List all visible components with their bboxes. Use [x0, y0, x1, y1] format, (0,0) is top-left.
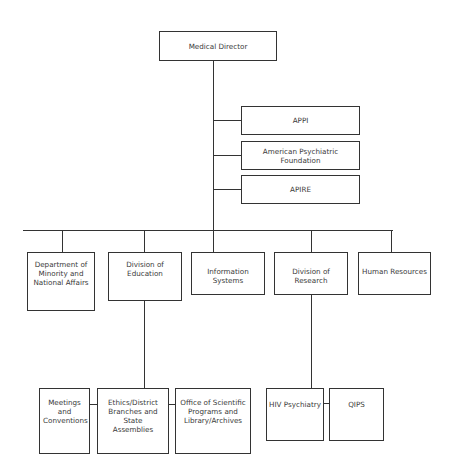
node-medical-director: Medical Director — [159, 31, 277, 61]
node-label: Division of Education — [126, 260, 164, 278]
connector-div-education — [144, 230, 145, 252]
node-appi: APPI — [241, 106, 360, 135]
connector-dept-minority — [62, 230, 63, 252]
node-division-of-research: Division of Research — [274, 252, 348, 295]
node-dept-minority-national-affairs: Department of Minority and National Affa… — [27, 252, 95, 311]
node-american-psychiatric-foundation: American Psychiatric Foundation — [241, 141, 360, 170]
node-label: Ethics/District Branches and State Assem… — [108, 398, 158, 434]
node-label: QIPS — [348, 400, 365, 409]
node-human-resources: Human Resources — [358, 252, 431, 295]
node-label: Division of Research — [292, 267, 330, 285]
node-label: HIV Psychiatry — [269, 400, 321, 409]
node-hiv-psychiatry: HIV Psychiatry — [266, 388, 324, 441]
connector-info-systems — [213, 230, 214, 252]
node-label: Department of Minority and National Affa… — [33, 260, 88, 287]
node-label: Office of Scientific Programs and Librar… — [180, 398, 245, 425]
node-apire: APIRE — [241, 175, 360, 204]
node-label: APPI — [293, 116, 309, 125]
node-ethics-district-branches: Ethics/District Branches and State Assem… — [97, 388, 169, 454]
node-qips: QIPS — [329, 388, 384, 441]
node-label: Human Resources — [362, 267, 427, 276]
node-label: American Psychiatric Foundation — [242, 147, 359, 165]
node-division-of-education: Division of Education — [108, 252, 182, 301]
node-office-scientific-programs: Office of Scientific Programs and Librar… — [175, 388, 251, 454]
connector-div-research — [311, 230, 312, 252]
connector-apf — [213, 155, 241, 156]
node-label: Meetings and Conventions — [43, 398, 88, 425]
connector-root-trunk — [213, 60, 214, 231]
node-information-systems: Information Systems — [191, 252, 265, 295]
connector-departments-bar — [23, 230, 393, 231]
node-meetings-conventions: Meetings and Conventions — [39, 388, 90, 454]
node-label: Information Systems — [207, 267, 249, 285]
connector-appi — [213, 120, 241, 121]
node-label: APIRE — [290, 185, 311, 194]
connector-human-resources — [391, 230, 392, 252]
node-label: Medical Director — [189, 42, 248, 51]
connector-apire — [213, 189, 241, 190]
